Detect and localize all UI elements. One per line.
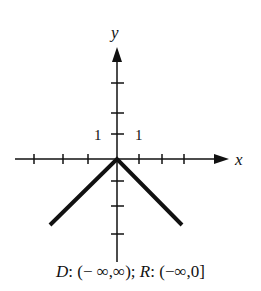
x-axis-label: x: [234, 150, 243, 169]
curve-y-equals-neg-abs-x: [50, 159, 182, 225]
x-axis-arrow-icon: [214, 154, 229, 164]
domain-range-caption: D: (− ∞,∞); R: (−∞,0]: [0, 262, 261, 282]
y-unit-label: 1: [94, 127, 102, 143]
range-label: R: [140, 262, 150, 281]
domain-value: : (− ∞,∞);: [68, 262, 140, 281]
domain-label: D: [56, 262, 68, 281]
y-axis-label: y: [109, 23, 119, 42]
range-value: : (−∞,0]: [150, 262, 205, 281]
y-axis-arrow-icon: [112, 47, 122, 62]
x-unit-label: 1: [135, 127, 143, 143]
graph: x y 1 1: [0, 0, 261, 291]
